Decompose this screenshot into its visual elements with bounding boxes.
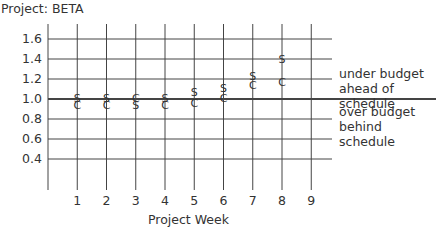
- marker-c: C: [189, 98, 199, 109]
- y-tick-label: 0.4: [6, 151, 42, 166]
- marker-c: C: [160, 100, 170, 111]
- marker-c: C: [131, 93, 141, 104]
- x-tick-label: 8: [272, 193, 292, 208]
- chart-area: Project: BETA 1.61.41.21.00.80.60.4 1234…: [0, 0, 440, 235]
- annotation-below-line2: behind schedule: [339, 119, 440, 149]
- marker-c: C: [72, 100, 82, 111]
- marker-c: C: [102, 100, 112, 111]
- marker-s: S: [277, 54, 287, 65]
- annotation-below-line1: over budget: [339, 104, 440, 119]
- marker-c: C: [277, 77, 287, 88]
- y-tick-label: 1.0: [6, 91, 42, 106]
- annotation-above-line1: under budget: [339, 66, 440, 81]
- y-tick-label: 1.6: [6, 31, 42, 46]
- x-tick-label: 6: [214, 193, 234, 208]
- y-tick-label: 0.8: [6, 111, 42, 126]
- y-tick-label: 1.2: [6, 71, 42, 86]
- x-tick-label: 3: [126, 193, 146, 208]
- x-tick-label: 7: [243, 193, 263, 208]
- marker-c: C: [219, 93, 229, 104]
- y-tick-label: 0.6: [6, 131, 42, 146]
- x-tick-label: 9: [301, 193, 321, 208]
- x-tick-label: 5: [184, 193, 204, 208]
- x-axis-title: Project Week: [148, 212, 229, 227]
- x-tick-label: 1: [67, 193, 87, 208]
- y-tick-label: 1.4: [6, 51, 42, 66]
- annotation-below: over budget behind schedule: [339, 104, 440, 149]
- x-tick-label: 2: [97, 193, 117, 208]
- marker-c: C: [248, 80, 258, 91]
- x-tick-label: 4: [155, 193, 175, 208]
